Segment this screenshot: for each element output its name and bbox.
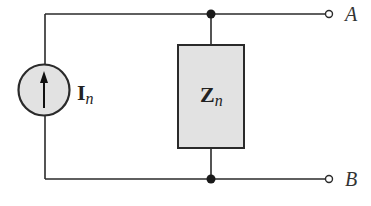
node-top bbox=[207, 10, 216, 19]
terminal-b bbox=[326, 176, 333, 183]
terminal-a-label: A bbox=[343, 3, 358, 25]
source-label: In bbox=[77, 80, 94, 107]
current-source bbox=[19, 65, 70, 116]
terminal-a bbox=[326, 11, 333, 18]
terminal-b-label: B bbox=[345, 168, 357, 190]
circuit-diagram: In Zn A B bbox=[0, 0, 371, 206]
node-bottom bbox=[207, 175, 216, 184]
